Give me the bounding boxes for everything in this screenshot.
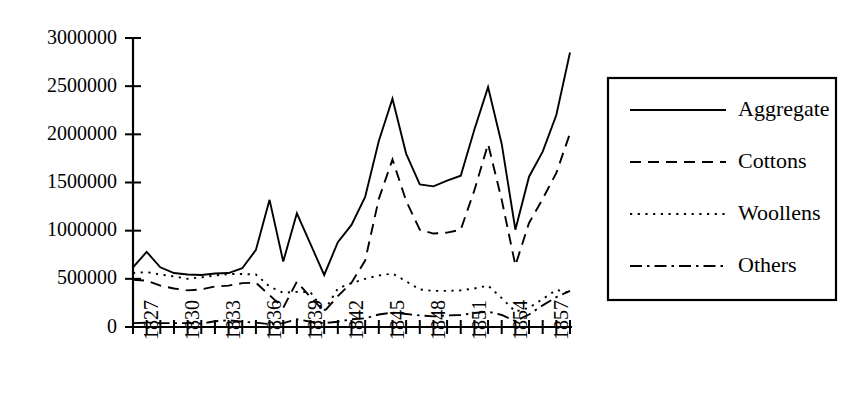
- legend-label-cottons: Cottons: [738, 148, 806, 173]
- x-tick-label: 1830: [181, 300, 203, 340]
- x-tick-label: 1854: [509, 300, 531, 340]
- legend-label-aggregate: Aggregate: [738, 96, 830, 121]
- y-tick-label: 1000000: [47, 218, 117, 240]
- x-tick-label: 1842: [345, 300, 367, 340]
- chart-legend: AggregateCottonsWoollensOthers: [608, 78, 836, 300]
- x-tick-label: 1839: [304, 300, 326, 340]
- legend-label-woollens: Woollens: [738, 200, 821, 225]
- y-tick-label: 2500000: [47, 74, 117, 96]
- chart-canvas: 0500000100000015000002000000250000030000…: [0, 0, 860, 417]
- x-tick-label: 1851: [468, 300, 490, 340]
- line-chart-figure: 0500000100000015000002000000250000030000…: [0, 0, 860, 417]
- x-tick-label: 1836: [263, 300, 285, 340]
- y-tick-label: 500000: [57, 266, 117, 288]
- y-tick-label: 0: [107, 315, 117, 337]
- x-tick-label: 1857: [550, 300, 572, 340]
- x-tick-label: 1848: [427, 300, 449, 340]
- x-tick-label: 1827: [140, 300, 162, 340]
- y-tick-label: 3000000: [47, 26, 117, 48]
- y-tick-label: 1500000: [47, 170, 117, 192]
- x-tick-label: 1845: [386, 300, 408, 340]
- legend-label-others: Others: [738, 252, 797, 277]
- y-tick-label: 2000000: [47, 122, 117, 144]
